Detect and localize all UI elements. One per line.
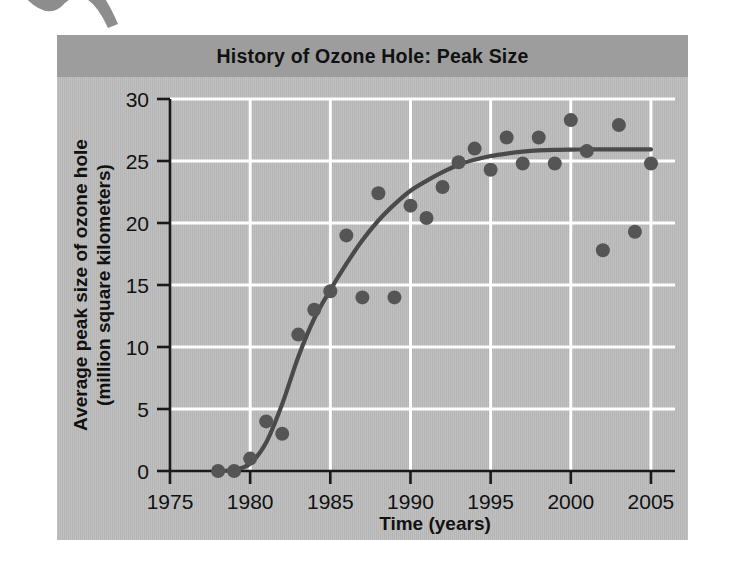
data-point [243,452,257,466]
x-tick-label: 2000 [547,490,594,513]
data-point [484,163,498,177]
y-axis-title-line-1: Average peak size of ozone hole [70,139,91,431]
y-tick-label: 5 [137,398,149,421]
data-point [420,211,434,225]
x-tick-label: 2005 [628,490,675,513]
data-point [403,199,417,213]
data-point [355,290,369,304]
data-point [564,113,578,127]
data-point [500,130,514,144]
figure-panel: History of Ozone Hole: Peak Size 0510152… [57,35,688,540]
data-point [532,130,546,144]
y-tick-marks [157,99,170,471]
data-point [612,118,626,132]
scatter-data-points [211,113,658,478]
y-tick-label: 10 [126,336,149,359]
x-tick-label: 1975 [147,490,194,513]
data-point [436,180,450,194]
data-point [387,290,401,304]
data-point [628,225,642,239]
y-axis-title-line-2: (million square kilometers) [93,164,114,406]
data-point [323,284,337,298]
trend-line [218,149,651,471]
data-point [227,464,241,478]
data-point [644,156,658,170]
data-point [371,186,385,200]
y-tick-label: 25 [126,150,149,173]
data-point [339,228,353,242]
data-point [307,303,321,317]
data-point [259,414,273,428]
data-point [548,156,562,170]
page-corner-artifact [0,0,118,30]
x-tick-label: 1980 [227,490,274,513]
y-tick-label: 0 [137,460,149,483]
x-tick-labels: 1975198019851990199520002005 [147,490,675,513]
data-point [452,155,466,169]
x-axis-title: Time (years) [379,513,491,534]
x-tick-label: 1985 [307,490,354,513]
x-tick-marks [170,471,651,484]
data-point [596,243,610,257]
y-tick-label: 20 [126,212,149,235]
data-point [275,427,289,441]
y-tick-label: 15 [126,274,149,297]
data-point [291,328,305,342]
data-point [580,144,594,158]
x-tick-label: 1990 [387,490,434,513]
data-point [468,142,482,156]
y-tick-labels: 051015202530 [126,88,149,483]
chart-plot-area: 051015202530 197519801985199019952000200… [57,35,688,540]
y-tick-label: 30 [126,88,149,111]
x-tick-label: 1995 [467,490,514,513]
data-point [516,156,530,170]
data-point [211,464,225,478]
